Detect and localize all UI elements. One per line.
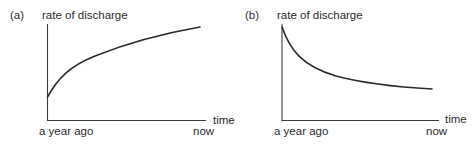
chart-a-x-start-label: a year ago — [39, 125, 93, 137]
chart-a-y-axis-label: rate of discharge — [42, 9, 128, 21]
chart-b-x-end-label: now — [426, 125, 447, 137]
chart-b-y-axis-label: rate of discharge — [277, 9, 363, 21]
chart-b-panel-label: (b) — [245, 9, 259, 21]
chart-a-curve — [48, 27, 201, 97]
chart-panel-b: (b) rate of discharge time a year ago no… — [236, 0, 473, 148]
chart-a-x-axis-label: time — [213, 114, 235, 126]
chart-b-curve — [282, 27, 432, 89]
chart-a-panel-label: (a) — [10, 9, 24, 21]
chart-b-x-start-label: a year ago — [274, 125, 328, 137]
chart-a-x-end-label: now — [193, 125, 214, 137]
chart-panel-a: (a) rate of discharge time a year ago no… — [0, 0, 236, 148]
chart-b-x-axis-label: time — [445, 113, 467, 125]
